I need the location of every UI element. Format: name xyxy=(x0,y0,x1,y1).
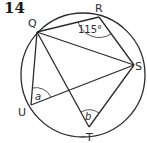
angle-label-a: a xyxy=(35,91,41,102)
vertex-label-Q: Q xyxy=(28,17,37,30)
segment-QT xyxy=(37,32,89,127)
segment-RS xyxy=(99,17,134,65)
segment-QS xyxy=(37,32,134,65)
angle-label-b: b xyxy=(85,111,91,122)
vertex-label-T: T xyxy=(85,131,93,143)
vertex-label-R: R xyxy=(95,2,103,15)
vertex-label-S: S xyxy=(135,60,142,73)
cyclic-polygon-diagram: 115° a b Q R S T U xyxy=(0,0,147,143)
vertex-label-U: U xyxy=(18,106,26,119)
angle-label-115: 115° xyxy=(78,24,102,35)
segment-US xyxy=(31,65,134,105)
